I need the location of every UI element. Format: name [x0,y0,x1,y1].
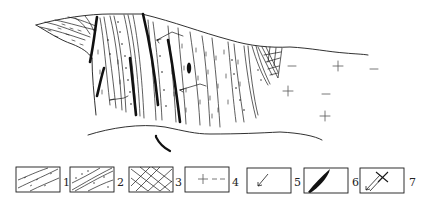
legend-item-6: 6 [304,168,359,193]
legend-label-1: 1 [63,176,70,189]
legend-label-3: 3 [175,176,182,189]
legend-label-6: 6 [352,176,359,189]
legend-item-5: 5 [247,168,301,193]
legend-item-7: 7 [360,168,416,193]
legend-label-2: 2 [117,176,124,189]
legend-label-7: 7 [409,176,416,189]
legend: 1 2 3 4 [16,167,416,193]
legend-item-4: 4 [185,167,239,192]
granite-symbols [283,61,378,121]
legend-item-3: 3 [129,167,182,192]
legend-item-2: 2 [70,167,124,192]
curved-arrow [155,135,170,151]
black-lens [187,63,191,74]
geological-cross-section: 1 2 3 4 [0,0,422,211]
legend-label-4: 4 [232,176,239,189]
legend-label-5: 5 [294,176,301,189]
legend-item-1: 1 [16,167,70,192]
schist-limb [40,16,96,45]
section-outline [36,14,368,140]
crosshatch-wedge [252,46,282,85]
